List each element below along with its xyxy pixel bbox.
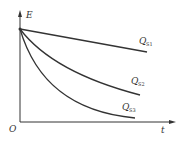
y-axis-arrow-icon bbox=[18, 10, 22, 17]
svg-text:S3: S3 bbox=[129, 107, 136, 113]
svg-text:S2: S2 bbox=[138, 81, 145, 87]
origin-label: O bbox=[9, 124, 17, 134]
axes bbox=[20, 14, 172, 122]
y-axis-label: E bbox=[25, 10, 33, 20]
svg-text:S1: S1 bbox=[146, 41, 153, 47]
label-qs3: Q S3 bbox=[122, 102, 136, 113]
label-qs2: Q S2 bbox=[131, 76, 145, 87]
x-axis-arrow-icon bbox=[169, 120, 176, 124]
start-point bbox=[19, 28, 22, 31]
curve-qs2 bbox=[20, 29, 140, 95]
label-qs1: Q S1 bbox=[139, 36, 153, 47]
energy-time-diagram: E t O Q S1 Q S2 Q S3 bbox=[0, 0, 184, 146]
x-axis-label: t bbox=[161, 125, 165, 135]
